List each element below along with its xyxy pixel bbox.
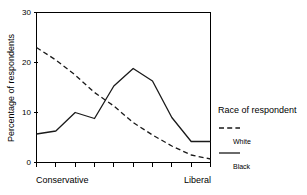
- y-tick-label-20: 20: [22, 58, 31, 67]
- y-axis-title: Percentage of respondents: [6, 33, 16, 142]
- chart-background: [0, 0, 307, 195]
- line-chart: 0 10 20 30 Percentage of respondents Con…: [0, 0, 307, 195]
- y-tick-label-0: 0: [27, 158, 32, 167]
- y-tick-label-10: 10: [22, 108, 31, 117]
- legend-title: Race of respondent: [218, 105, 297, 115]
- y-tick-label-30: 30: [22, 8, 31, 17]
- x-label-conservative: Conservative: [36, 175, 89, 185]
- legend-label-white: White: [233, 138, 251, 145]
- chart-figure: 0 10 20 30 Percentage of respondents Con…: [0, 0, 307, 195]
- x-label-liberal: Liberal: [184, 175, 211, 185]
- legend-label-black: Black: [233, 163, 251, 170]
